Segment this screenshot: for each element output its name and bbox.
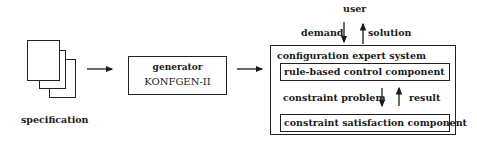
arrows-layer xyxy=(0,0,477,152)
